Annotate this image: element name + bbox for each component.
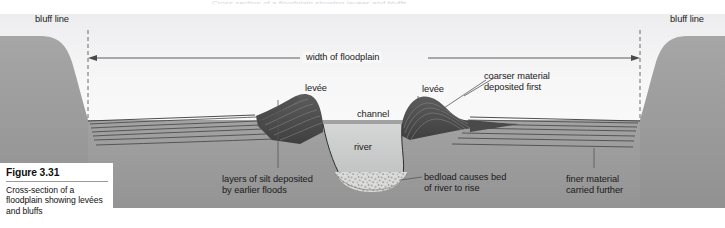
label-river: river — [354, 142, 372, 153]
label-bluff-line-right: bluff line — [670, 14, 704, 25]
label-coarser-material: coarser material deposited first — [484, 71, 574, 93]
figure-diagram: Cross-section of a floodplain showing le… — [0, 0, 725, 228]
label-layers-of-silt: layers of silt deposited by earlier floo… — [222, 174, 334, 196]
label-bedload: bedload causes bed of river to rise — [424, 172, 528, 194]
label-channel: channel — [357, 109, 389, 120]
figure-number: Figure 3.31 — [6, 167, 108, 178]
figure-caption-box: Figure 3.31 Cross-section of a floodplai… — [0, 163, 113, 208]
figure-caption: Cross-section of a floodplain showing le… — [6, 185, 108, 216]
label-levee-left: levée — [305, 83, 327, 94]
label-finer-material: finer material carried further — [566, 174, 650, 196]
label-levee-right: levée — [422, 84, 444, 95]
caption-divider — [6, 181, 108, 182]
label-bluff-line-left: bluff line — [35, 14, 69, 25]
label-width-of-floodplain: width of floodplain — [303, 52, 382, 63]
